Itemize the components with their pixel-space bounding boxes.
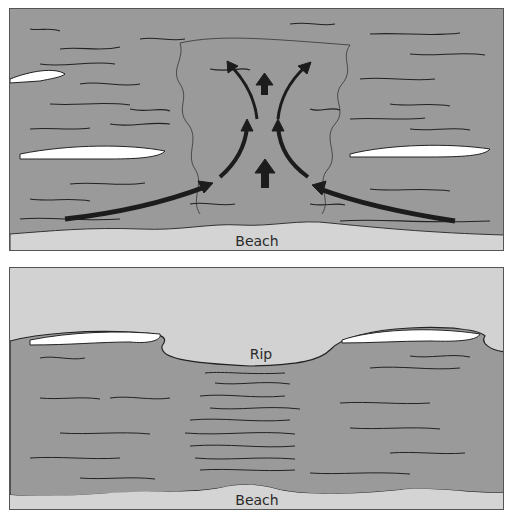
rip-label: Rip [221,346,301,362]
plan-view-panel: Beach [9,8,504,251]
right-wave-crest [342,330,480,343]
beach-label: Beach [217,492,297,508]
feeder-current-right-arrow [320,189,455,221]
feeder-current-left-arrow [65,187,205,219]
beach-label: Beach [217,233,297,249]
plan-view-illustration [10,9,504,251]
perspective-view-panel: Rip Beach [9,267,504,510]
perspective-view-illustration [10,268,504,510]
water-texture [20,23,490,222]
